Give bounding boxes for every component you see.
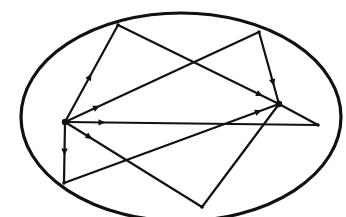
- boundary-point-right: [316, 123, 320, 127]
- ray-line: [65, 122, 202, 207]
- arrowhead-icon: [98, 119, 105, 125]
- ray-line: [118, 25, 279, 104]
- arrowhead-icon: [254, 110, 262, 116]
- focus-left-dot: [62, 119, 68, 125]
- boundary-point-bottom-right: [200, 205, 204, 209]
- ellipse-reflection-diagram: [0, 0, 346, 217]
- arrowhead-icon: [61, 148, 67, 155]
- focus-right-dot: [276, 101, 282, 107]
- ray-line: [259, 32, 279, 104]
- boundary-point-bottom-left: [62, 181, 66, 185]
- boundary-point-top-right: [257, 30, 261, 34]
- ray-line: [279, 104, 318, 125]
- ray-line: [202, 104, 279, 207]
- ray-line: [64, 104, 279, 183]
- boundary-point-top-left: [116, 23, 120, 27]
